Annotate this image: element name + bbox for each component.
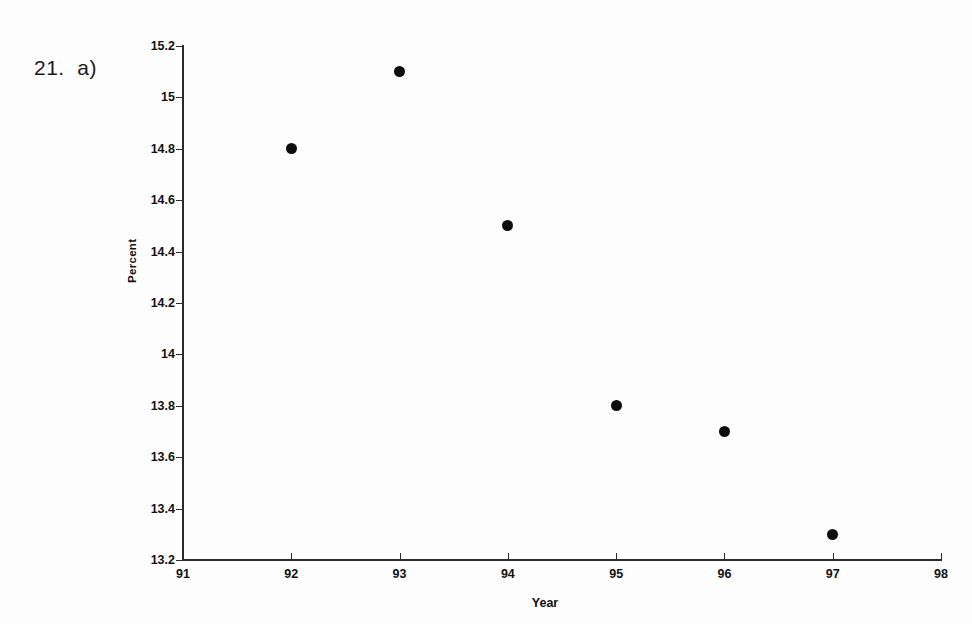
y-axis-tick-label: 14.6 bbox=[129, 194, 175, 207]
y-axis-tick bbox=[176, 406, 182, 407]
y-axis-tick bbox=[176, 560, 182, 561]
x-axis-tick bbox=[616, 553, 617, 560]
data-point bbox=[286, 143, 297, 154]
y-axis-tick bbox=[176, 303, 182, 304]
y-axis-tick-label: 14 bbox=[129, 348, 175, 361]
y-axis-tick bbox=[176, 354, 182, 355]
x-axis-tick-label: 95 bbox=[596, 568, 636, 581]
y-axis-tick-label: 14.2 bbox=[129, 297, 175, 310]
scatter-plot: 15.21514.814.614.414.21413.813.613.413.2… bbox=[0, 0, 972, 624]
y-axis-tick bbox=[176, 149, 182, 150]
y-axis-tick-label: 15 bbox=[129, 91, 175, 104]
y-axis-tick bbox=[176, 46, 182, 47]
x-axis-tick bbox=[291, 553, 292, 560]
x-axis-line bbox=[182, 559, 942, 561]
x-axis-tick-label: 93 bbox=[380, 568, 420, 581]
y-axis-tick-label: 13.4 bbox=[129, 503, 175, 516]
y-axis-tick bbox=[176, 457, 182, 458]
x-axis-tick bbox=[724, 553, 725, 560]
y-axis-title: Percent bbox=[126, 239, 138, 283]
x-axis-tick-label: 96 bbox=[704, 568, 744, 581]
data-point bbox=[827, 529, 838, 540]
x-axis-tick-label: 97 bbox=[813, 568, 853, 581]
data-point bbox=[502, 220, 513, 231]
x-axis-tick bbox=[400, 553, 401, 560]
x-axis-tick-label: 92 bbox=[271, 568, 311, 581]
y-axis-tick bbox=[176, 200, 182, 201]
x-axis-tick bbox=[508, 553, 509, 560]
x-axis-tick-label: 91 bbox=[163, 568, 203, 581]
x-axis-tick bbox=[183, 553, 184, 560]
y-axis-tick-label: 15.2 bbox=[129, 40, 175, 53]
y-axis-tick bbox=[176, 252, 182, 253]
y-axis-line bbox=[182, 45, 184, 561]
x-axis-tick-label: 98 bbox=[921, 568, 961, 581]
x-axis-tick-label: 94 bbox=[488, 568, 528, 581]
data-point bbox=[394, 66, 405, 77]
y-axis-tick-label: 14.8 bbox=[129, 143, 175, 156]
x-axis-tick bbox=[941, 553, 942, 560]
y-axis-tick-label: 13.2 bbox=[129, 554, 175, 567]
x-axis-title: Year bbox=[0, 596, 972, 610]
x-axis-title-text: Year bbox=[532, 596, 558, 610]
y-axis-tick bbox=[176, 97, 182, 98]
data-point bbox=[719, 426, 730, 437]
y-axis-tick-label: 13.6 bbox=[129, 451, 175, 464]
data-point bbox=[611, 400, 622, 411]
y-axis-tick-label: 13.8 bbox=[129, 400, 175, 413]
x-axis-tick bbox=[833, 553, 834, 560]
y-axis-tick bbox=[176, 509, 182, 510]
